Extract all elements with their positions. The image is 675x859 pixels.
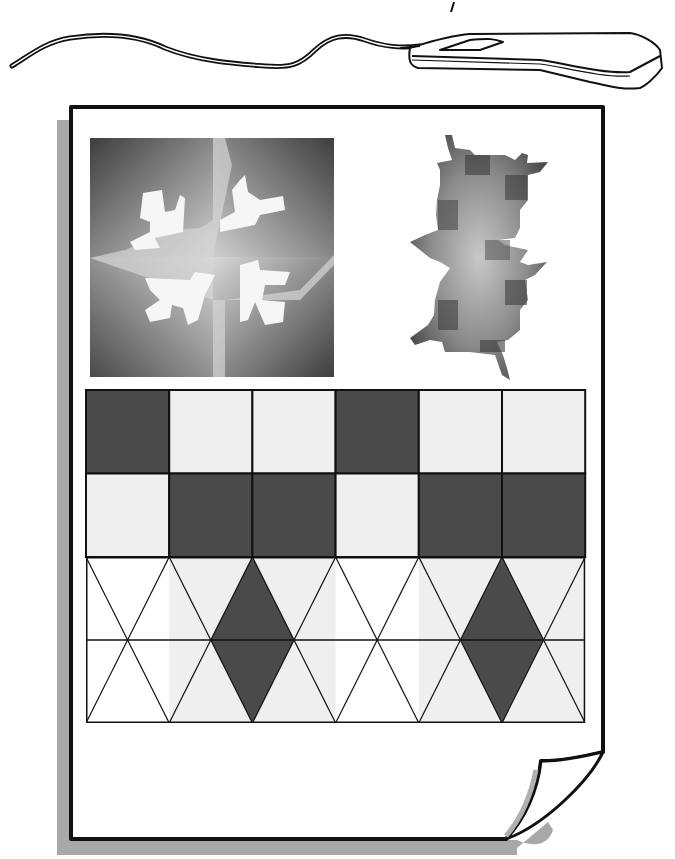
illustration [0,0,675,859]
grid-square-dark [419,474,502,558]
grid-square-light [419,390,502,474]
grid-square-dark [336,390,419,474]
grid-square-dark [86,390,169,474]
grid-square-light [336,474,419,558]
grid-square-dark [252,474,335,558]
mouse-icon [400,33,662,89]
cursor-mark [451,2,454,12]
square-grid [86,390,585,557]
grid-square-light [86,474,169,558]
pinwheel-tile [90,138,334,377]
triangle-band [3,557,669,723]
grid-square-light [252,390,335,474]
grid-square-dark [169,474,252,558]
mouse-cable [12,35,420,66]
grid-square-light [169,390,252,474]
grid-square-light [502,390,585,474]
grid-square-dark [502,474,585,558]
